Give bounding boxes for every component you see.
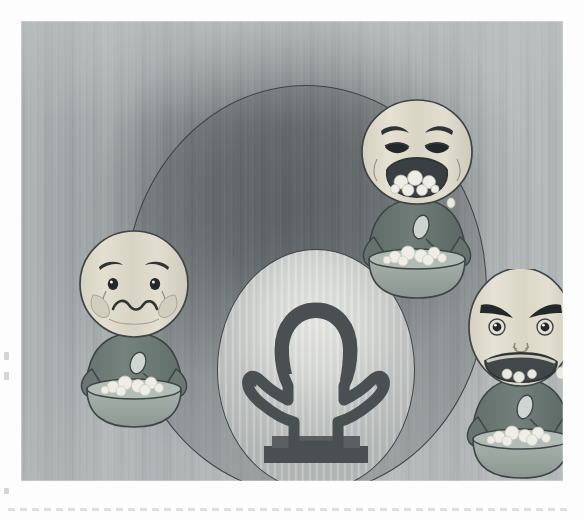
character-sad-left: [59, 229, 209, 435]
artwork-plate: [21, 21, 563, 481]
edge-fleck-artifact: [4, 488, 9, 494]
edge-fleck-artifact: [4, 352, 9, 360]
scanner-dashed-line-artifact: [8, 508, 568, 511]
character-angry-right: [441, 269, 563, 481]
illustration-page: [0, 0, 583, 519]
edge-fleck-artifact: [4, 372, 9, 380]
